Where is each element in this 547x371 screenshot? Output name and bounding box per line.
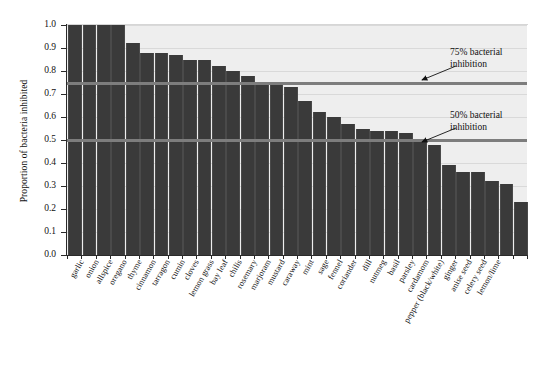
bar (327, 117, 341, 255)
bar (198, 60, 212, 256)
bar (485, 181, 499, 255)
y-tick (61, 163, 67, 164)
y-tick (61, 94, 67, 95)
y-tick-label: 0.1 (22, 226, 56, 236)
bar (341, 124, 355, 255)
y-tick-label: 0.4 (22, 157, 56, 167)
y-tick-label: 0.7 (22, 88, 56, 98)
y-tick (61, 209, 67, 210)
bar (428, 145, 442, 255)
x-tick-label: garlic (68, 258, 86, 280)
y-tick-label: 0.3 (22, 180, 56, 190)
bar (385, 131, 399, 255)
reference-line-75 (67, 82, 527, 85)
annotation-75-line1: 75% bacterial (450, 47, 503, 59)
bar (298, 101, 312, 255)
y-tick-label: 0.5 (22, 134, 56, 144)
y-tick-label: 0.9 (22, 42, 56, 52)
annotation-75-arrow (416, 64, 458, 84)
y-tick-label: 0.2 (22, 203, 56, 213)
bar (226, 71, 240, 255)
gridline (67, 25, 527, 26)
y-tick (61, 117, 67, 118)
bar-chart: Proportion of bacteria inhibited 1.00.90… (0, 0, 547, 371)
y-tick (61, 186, 67, 187)
bar (270, 83, 284, 256)
y-tick-label: 1.0 (22, 19, 56, 29)
y-tick-label: 0.8 (22, 65, 56, 75)
x-axis-labels: garliconionallspiceoreganothymecinnamont… (0, 258, 547, 371)
y-tick (61, 48, 67, 49)
bar (169, 55, 183, 255)
x-tick-label: mint (300, 258, 316, 276)
y-tick (61, 71, 67, 72)
y-tick (61, 25, 67, 26)
y-tick-label: 0.6 (22, 111, 56, 121)
y-tick (61, 232, 67, 233)
bar (442, 165, 456, 255)
annotation-50-line1: 50% bacterial (450, 110, 503, 122)
bar (514, 202, 528, 255)
bar (241, 76, 255, 255)
bar (456, 172, 470, 255)
reference-line-50 (67, 139, 527, 142)
bar (471, 172, 485, 255)
bar (255, 83, 269, 256)
bar (284, 87, 298, 255)
bar (500, 184, 514, 255)
bar (212, 66, 226, 255)
bar (183, 60, 197, 256)
bar (126, 43, 140, 255)
bar (313, 112, 327, 255)
annotation-50-arrow (416, 126, 458, 146)
bar (399, 133, 413, 255)
bar (413, 140, 427, 255)
bar (356, 129, 370, 256)
bar (370, 131, 384, 255)
